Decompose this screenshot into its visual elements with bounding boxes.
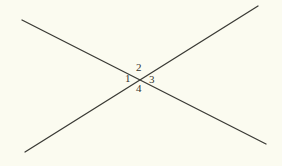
angle-label-3: 3 bbox=[149, 74, 155, 85]
ascending-line bbox=[25, 6, 258, 152]
descending-line bbox=[22, 20, 266, 144]
angle-label-1: 1 bbox=[125, 73, 131, 84]
angle-label-4: 4 bbox=[136, 83, 142, 94]
angle-label-2: 2 bbox=[136, 62, 142, 73]
geometry-figure: 1 2 3 4 bbox=[0, 0, 282, 166]
